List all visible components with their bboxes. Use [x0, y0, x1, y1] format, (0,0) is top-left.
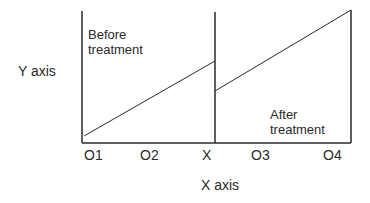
- tick-x: X: [202, 148, 211, 163]
- tick-o1: O1: [84, 148, 103, 163]
- tick-o4: O4: [323, 148, 342, 163]
- x-axis-label: X axis: [201, 178, 239, 193]
- after-label-line2: treatment: [270, 122, 325, 137]
- y-axis-label: Y axis: [18, 64, 56, 79]
- after-label-line1: After: [270, 107, 325, 122]
- before-label-line2: treatment: [88, 42, 143, 57]
- after-treatment-label: After treatment: [270, 107, 325, 137]
- tick-o3: O3: [251, 148, 270, 163]
- before-treatment-label: Before treatment: [88, 27, 143, 57]
- before-label-line1: Before: [88, 27, 143, 42]
- after-trend-line: [215, 10, 351, 91]
- tick-o2: O2: [140, 148, 159, 163]
- diagram-lines: [0, 0, 370, 203]
- before-trend-line: [84, 61, 215, 136]
